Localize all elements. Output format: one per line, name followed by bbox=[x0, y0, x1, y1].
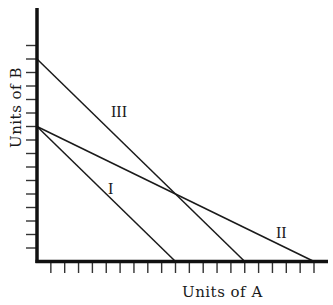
line-label-I: I bbox=[108, 180, 113, 197]
x-axis-label: Units of A bbox=[182, 283, 263, 301]
series-line-III bbox=[37, 59, 245, 262]
line-label-II: II bbox=[276, 224, 287, 241]
line-label-III: III bbox=[111, 103, 127, 120]
chart-canvas: III I II Units of A Units of B bbox=[0, 0, 333, 305]
series-lines bbox=[37, 59, 314, 262]
series-line-I bbox=[37, 127, 176, 262]
y-axis-label: Units of B bbox=[7, 67, 25, 148]
x-axis-ticks bbox=[51, 262, 314, 273]
